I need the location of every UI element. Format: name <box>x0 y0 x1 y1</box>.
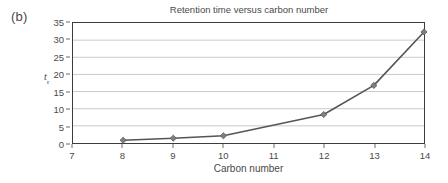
x-axis-label: Carbon number <box>72 163 425 174</box>
x-tick-mark <box>324 144 325 148</box>
y-tick-label: 25 <box>53 51 64 62</box>
series-line <box>123 32 424 140</box>
x-tick-label: 11 <box>269 150 279 161</box>
y-tick-mark <box>66 56 70 57</box>
x-tick-label: 7 <box>69 150 74 161</box>
y-tick-label: 35 <box>53 17 64 28</box>
y-tick-mark <box>66 22 70 23</box>
y-tick-label: 10 <box>53 104 64 115</box>
y-tick-mark <box>66 74 70 75</box>
x-tick-label: 10 <box>218 150 229 161</box>
y-tick-mark <box>66 126 70 127</box>
y-tick-mark <box>66 144 70 145</box>
x-tick-mark <box>122 144 123 148</box>
y-tick-label: 0 <box>59 139 64 150</box>
y-tick-mark <box>66 39 70 40</box>
x-tick-label: 14 <box>420 150 431 161</box>
x-tick-mark <box>72 144 73 148</box>
x-tick-mark <box>273 144 274 148</box>
plot-area <box>72 22 425 144</box>
y-tick-label: 30 <box>53 34 64 45</box>
y-tick-mark <box>66 109 70 110</box>
x-tick-label: 13 <box>369 150 380 161</box>
data-point-marker <box>220 133 226 139</box>
y-tick-mark <box>66 91 70 92</box>
x-tick-label: 12 <box>319 150 330 161</box>
data-point-marker <box>120 137 126 143</box>
y-tick-label: 20 <box>53 69 64 80</box>
x-tick-mark <box>374 144 375 148</box>
y-tick-label: 5 <box>59 121 64 132</box>
x-tick-mark <box>425 144 426 148</box>
y-axis-ticks: 05101520253035 <box>0 22 70 144</box>
x-tick-mark <box>172 144 173 148</box>
data-point-marker <box>170 135 176 141</box>
data-series-layer <box>73 23 424 143</box>
x-tick-label: 8 <box>120 150 125 161</box>
chart-title: Retention time versus carbon number <box>72 4 426 15</box>
x-tick-mark <box>223 144 224 148</box>
y-tick-label: 15 <box>53 86 64 97</box>
x-tick-label: 9 <box>170 150 175 161</box>
